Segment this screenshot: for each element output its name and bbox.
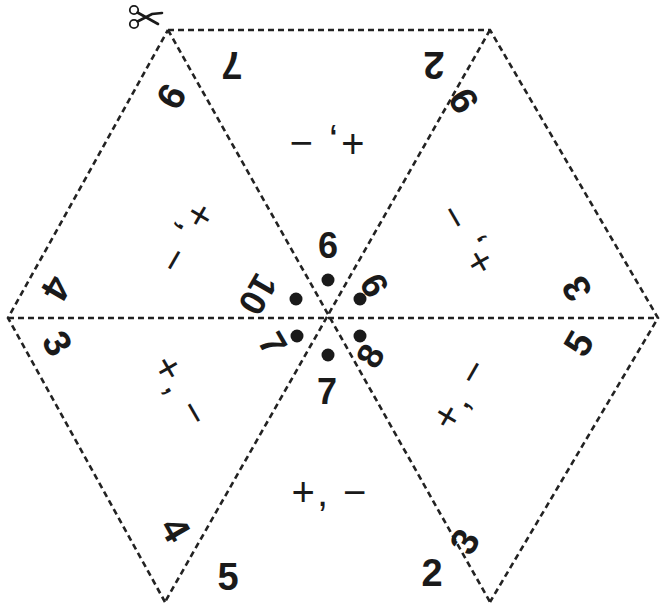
operations-label: +, − xyxy=(422,349,499,438)
hexagon-puzzle-board: +, − 2 7 6 +, − 9 3 9 +, − 5 3 8 +, − 5 … xyxy=(0,0,667,603)
inner-dot xyxy=(354,330,367,343)
triangle-top-right: +, − 9 3 9 xyxy=(351,81,600,308)
triangle-top: +, − 2 7 6 xyxy=(221,44,444,287)
triangle-bottom-right: +, − 5 3 8 xyxy=(347,324,602,561)
outer-number-left: 5 xyxy=(217,556,238,598)
outer-number-left: 5 xyxy=(555,324,602,363)
inner-dot xyxy=(291,330,304,343)
operations-label: +, − xyxy=(428,195,505,284)
outer-number-right: 2 xyxy=(421,552,442,594)
inner-number: 10 xyxy=(230,267,286,322)
outer-number-right: 7 xyxy=(221,44,242,86)
cut-lines xyxy=(8,30,658,602)
outer-number-left: 2 xyxy=(423,44,444,86)
operations-label: +, − xyxy=(144,347,221,436)
inner-dot xyxy=(322,274,335,287)
triangle-bottom: +, − 5 2 7 xyxy=(217,349,442,599)
outer-number-right: 3 xyxy=(553,269,600,308)
operations-label: +, − xyxy=(292,470,369,514)
outer-number-right: 4 xyxy=(33,269,80,308)
inner-number: 6 xyxy=(318,225,338,266)
inner-number: 7 xyxy=(250,325,296,363)
inner-dot xyxy=(290,293,303,306)
operations-label: +, − xyxy=(288,122,365,166)
spoke-top-right xyxy=(165,30,490,602)
outer-hexagon-outline xyxy=(8,30,658,602)
outer-number-left: 9 xyxy=(148,77,195,116)
inner-dot xyxy=(354,293,367,306)
spoke-top-left xyxy=(168,30,490,602)
outer-number-right: 3 xyxy=(34,324,81,363)
inner-number: 8 xyxy=(347,337,393,375)
scissors-icon xyxy=(130,6,162,28)
inner-dot xyxy=(322,349,335,362)
operations-label: +, − xyxy=(149,195,226,284)
outer-number-left: 9 xyxy=(440,81,487,120)
inner-number: 7 xyxy=(317,371,337,412)
outer-number-left: 4 xyxy=(152,510,199,549)
triangle-bottom-left: +, − 4 3 7 xyxy=(34,324,304,549)
